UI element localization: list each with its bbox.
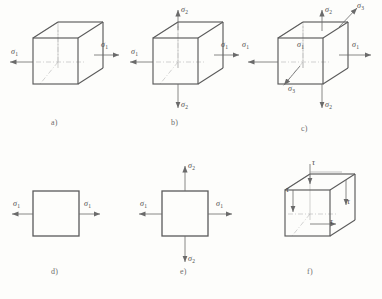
panel-c-drawing [240,0,382,150]
sigma-1-right-label: σ1 [84,200,91,208]
panel-c: σ1 σ1 σ1 σ2 σ2 σ3 σ3 c) [240,0,382,150]
sigma-1-right-label: σ1 [352,41,359,49]
panel-d-caption: d) [51,267,58,276]
tau-left-label: τ [286,186,289,194]
panel-a: σ1 σ1 a) [0,0,130,150]
panel-a-drawing [0,0,130,150]
tau-bottom-label: τ [330,218,333,226]
sigma-1-inner-left-label: σ1 [297,41,304,49]
sigma-1-left-label: σ1 [13,200,20,208]
cube-b [153,22,223,84]
sigma-2-top-label: σ2 [181,6,188,14]
cube-a [33,22,103,84]
sigma-3-arrow-lower-left [284,66,300,85]
square-e [162,191,208,236]
sigma-1-left-label: σ1 [11,48,18,56]
sigma-1-right-label: σ1 [216,200,223,208]
panel-f-drawing [250,150,382,299]
panel-c-caption: c) [301,124,308,133]
sigma-1-right-label: σ1 [101,41,108,49]
panel-b-caption: b) [171,118,178,127]
cube-f [285,174,355,236]
sigma-1-left-label: σ1 [131,48,138,56]
panel-b-drawing [120,0,250,150]
panel-b: σ1 σ1 σ2 σ2 b) [120,0,250,150]
sigma-1-left-label: σ1 [242,41,249,49]
panel-e-caption: e) [180,267,187,276]
stress-states-figure: σ1 σ1 a) [0,0,382,299]
sigma-2-bottom-label: σ2 [181,101,188,109]
sigma-1-right-label: σ1 [221,41,228,49]
panel-d: σ1 σ1 d) [0,150,130,299]
panel-f-caption: f) [307,267,313,276]
panel-f: τ τ τ τ f) [250,150,382,299]
sigma-3-upper-right-label: σ3 [357,2,364,10]
cube-c [278,22,348,86]
tau-top-label: τ [312,159,315,167]
sigma-2-top-label: σ2 [188,162,195,170]
panel-a-caption: a) [51,118,58,127]
sigma-2-bottom-label: σ2 [188,255,195,263]
square-d [33,191,79,236]
sigma-3-lower-left-label: σ3 [288,85,295,93]
panel-e: σ1 σ1 σ2 σ2 e) [120,150,250,299]
panel-d-drawing [0,150,130,299]
sigma-2-bottom-label: σ2 [325,101,332,109]
sigma-1-left-label: σ1 [140,200,147,208]
sigma-2-top-label: σ2 [325,6,332,14]
panel-e-drawing [120,150,250,299]
tau-right-label: τ [347,198,350,206]
